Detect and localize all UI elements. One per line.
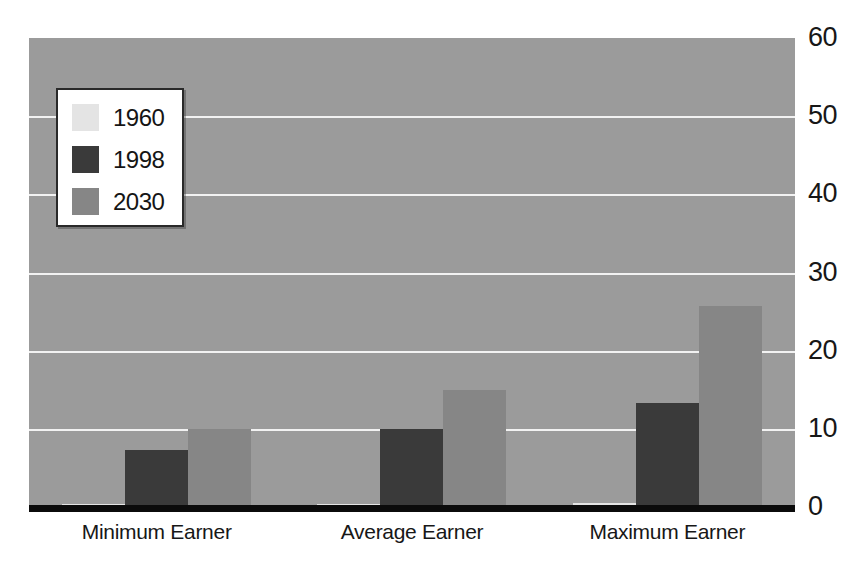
bar-2030-1 — [443, 390, 506, 507]
legend-label-2030: 2030 — [113, 190, 164, 214]
x-tick-label-2: Maximum Earner — [557, 521, 777, 542]
legend-label-1960: 1960 — [113, 106, 164, 130]
bar-2030-2 — [699, 306, 762, 507]
y-tick-label-60: 60 — [808, 24, 837, 51]
y-tick-label-40: 40 — [808, 180, 837, 207]
x-tick-label-0: Minimum Earner — [47, 521, 267, 542]
y-tick-label-0: 0 — [808, 493, 823, 520]
bar-chart-figure: 0102030405060 Minimum EarnerAverage Earn… — [0, 0, 860, 566]
bar-1998-1 — [380, 429, 443, 507]
bar-1998-2 — [636, 403, 699, 507]
y-tick-label-10: 10 — [808, 415, 837, 442]
x-tick-label-1: Average Earner — [302, 521, 522, 542]
x-axis-line — [29, 505, 795, 512]
y-tick-label-50: 50 — [808, 102, 837, 129]
gridline-20 — [29, 351, 795, 353]
bar-1998-0 — [125, 450, 188, 507]
legend-item-1998: 1998 — [72, 146, 164, 173]
legend-label-1998: 1998 — [113, 148, 164, 172]
legend-swatch-1960 — [72, 104, 99, 131]
y-tick-label-20: 20 — [808, 337, 837, 364]
bar-2030-0 — [188, 429, 251, 507]
legend-swatch-1998 — [72, 146, 99, 173]
chart-legend: 1960 1998 2030 — [56, 88, 184, 227]
y-tick-label-30: 30 — [808, 259, 837, 286]
legend-item-1960: 1960 — [72, 104, 164, 131]
legend-item-2030: 2030 — [72, 188, 164, 215]
legend-swatch-2030 — [72, 188, 99, 215]
gridline-30 — [29, 273, 795, 275]
